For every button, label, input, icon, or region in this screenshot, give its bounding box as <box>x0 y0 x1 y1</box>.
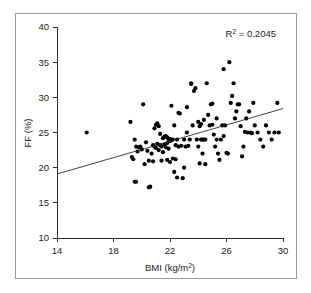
data-point <box>168 160 172 164</box>
data-point <box>172 170 176 174</box>
data-point <box>261 144 265 148</box>
data-point <box>195 137 199 141</box>
data-point <box>191 123 195 127</box>
data-point <box>272 130 276 134</box>
data-point <box>212 133 216 137</box>
data-point <box>134 180 138 184</box>
y-tick-label: 40 <box>38 21 49 32</box>
data-point <box>193 86 197 90</box>
data-point <box>237 102 241 106</box>
data-point <box>270 137 274 141</box>
data-point <box>241 144 245 148</box>
data-point <box>186 144 190 148</box>
data-point <box>198 161 202 165</box>
x-tick-label: 26 <box>221 245 232 256</box>
data-point <box>253 123 257 127</box>
data-point <box>142 162 146 166</box>
data-point <box>196 144 200 148</box>
x-axis-title: BMI (kg/m2) <box>145 262 195 274</box>
data-point <box>182 166 186 170</box>
data-point <box>264 123 268 127</box>
data-point <box>133 137 137 141</box>
data-point <box>141 102 145 106</box>
figure-root: 10152025303540 1418222630 FF (%) BMI (kg… <box>0 0 311 293</box>
data-point <box>275 101 279 105</box>
data-point <box>178 111 182 115</box>
data-point <box>157 148 161 152</box>
data-point <box>199 122 203 126</box>
data-point <box>210 102 214 106</box>
y-tick-label: 15 <box>38 197 49 208</box>
data-point <box>148 185 152 189</box>
data-point <box>159 159 163 163</box>
data-point <box>179 144 183 148</box>
x-axis-title-main: BMI (kg/m <box>145 262 188 273</box>
data-point <box>145 149 149 153</box>
data-point <box>219 137 223 141</box>
data-point <box>205 81 209 85</box>
data-point <box>189 81 193 85</box>
y-tick-label: 30 <box>38 92 49 103</box>
x-tick-label: 18 <box>108 245 119 256</box>
y-tick-label: 35 <box>38 57 49 68</box>
x-tick-label: 14 <box>52 245 63 256</box>
data-point <box>128 120 132 124</box>
data-point <box>85 130 89 134</box>
data-point <box>151 159 155 163</box>
data-point <box>277 130 281 134</box>
data-point <box>157 124 161 128</box>
x-tick-label: 30 <box>278 245 289 256</box>
data-point <box>206 113 210 117</box>
data-point <box>216 152 220 156</box>
x-tick-label: 22 <box>165 245 176 256</box>
r-squared-value: = 0.2045 <box>236 28 276 39</box>
y-axis-ticks: 10152025303540 <box>38 21 57 243</box>
data-point <box>234 109 238 113</box>
data-point <box>233 116 237 120</box>
data-point <box>185 130 189 134</box>
r-squared-annotation: R2 = 0.2045 <box>226 28 276 40</box>
x-axis-title-tail: ) <box>192 262 195 273</box>
data-point <box>255 130 259 134</box>
data-point <box>203 162 207 166</box>
y-tick-label: 25 <box>38 127 49 138</box>
data-point <box>226 152 230 156</box>
y-tick-label: 10 <box>38 232 49 243</box>
data-point <box>215 137 219 141</box>
y-tick-label: 20 <box>38 162 49 173</box>
data-point <box>222 134 226 138</box>
data-point <box>231 81 235 85</box>
data-point <box>188 137 192 141</box>
data-point <box>250 131 254 135</box>
data-point <box>172 123 176 127</box>
data-point <box>131 157 135 161</box>
data-point <box>215 116 219 120</box>
data-point <box>258 137 262 141</box>
data-point <box>267 130 271 134</box>
data-point <box>247 109 251 113</box>
data-point <box>174 157 178 161</box>
data-point <box>222 67 226 71</box>
data-point <box>240 154 244 158</box>
data-point <box>200 152 204 156</box>
data-point <box>210 123 214 127</box>
data-point <box>213 144 217 148</box>
data-point <box>161 150 165 154</box>
data-point <box>239 124 243 128</box>
scatter-chart: 10152025303540 1418222630 FF (%) BMI (kg… <box>0 0 311 293</box>
data-point <box>144 140 148 144</box>
data-point <box>150 152 154 156</box>
data-points-group <box>85 60 281 189</box>
data-point <box>175 175 179 179</box>
x-axis-ticks: 1418222630 <box>52 238 289 256</box>
data-point <box>229 101 233 105</box>
data-point <box>230 94 234 98</box>
data-point <box>181 176 185 180</box>
data-point <box>203 137 207 141</box>
data-point <box>185 105 189 109</box>
data-point <box>202 118 206 122</box>
data-point <box>251 101 255 105</box>
data-point <box>169 104 173 108</box>
data-point <box>147 159 151 163</box>
data-point <box>227 60 231 64</box>
